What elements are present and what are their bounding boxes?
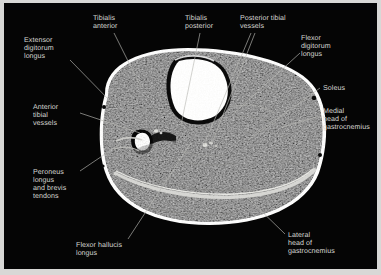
tibia-bone [166,56,231,125]
mri-image-panel: Extensor digitorum longus Tibialis anter… [4,3,377,269]
label-flexor-hallucis-longus: Flexor hallucis longus [76,241,122,257]
label-anterior-tibial-vessels: Anterior tibial vessels [33,103,58,127]
label-peroneus-longus-and-brevis-tendons: Peroneus longus and brevis tendons [33,168,66,200]
label-posterior-tibial-vessels: Posterior tibial vessels [240,14,286,30]
label-flexor-digitorum-longus: Flexor digitorum longus [301,34,331,58]
figure-page: Extensor digitorum longus Tibialis anter… [0,0,381,275]
label-soleus: Soleus [323,84,345,92]
label-tibialis-posterior: Tibialis posterior [185,14,213,30]
tibia-marrow [170,59,227,120]
label-tibialis-anterior: Tibialis anterior [93,14,117,30]
label-lateral-head-of-gastrocnemius: Lateral head of gastrocnemius [288,231,335,255]
label-extensor-digitorum-longus: Extensor digitorum longus [24,36,54,60]
label-medial-head-of-gastrocnemius: Medial head of gastrocnemius [323,107,370,131]
